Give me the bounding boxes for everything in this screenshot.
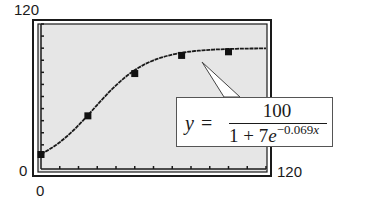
exponent-variable: x — [313, 122, 319, 137]
formula-lhs: y — [185, 112, 194, 135]
formula-equals: = — [201, 112, 212, 135]
data-point-marker — [225, 48, 232, 55]
denominator-prefix: 1 + 7 — [229, 125, 268, 146]
x-axis-max-label: 120 — [277, 164, 302, 179]
x-axis-min-label: 0 — [36, 183, 44, 198]
equation-callout: y = 100 1 + 7e−0.069x — [176, 97, 333, 147]
logistic-equation: y = 100 1 + 7e−0.069x — [177, 98, 332, 146]
y-axis-max-label: 120 — [14, 2, 39, 17]
exponent-coefficient: −0.069 — [277, 122, 314, 137]
formula-numerator: 100 — [227, 100, 327, 122]
data-point-marker — [84, 112, 91, 119]
y-axis-min-label: 0 — [19, 163, 27, 178]
data-point-marker — [178, 52, 185, 59]
data-point-marker — [38, 151, 45, 158]
euler-e: e — [268, 125, 276, 146]
exponent: −0.069x — [277, 122, 319, 137]
formula-denominator: 1 + 7e−0.069x — [229, 125, 319, 147]
data-point-marker — [131, 70, 138, 77]
